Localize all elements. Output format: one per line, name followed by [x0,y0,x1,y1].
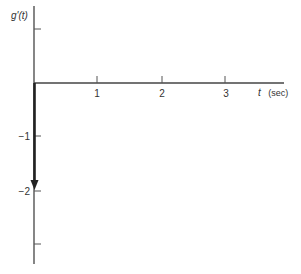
x-axis-label: t (sec) [258,82,288,99]
y-tick-label-m2: −2 [19,186,31,197]
y-axis-label: g'(t) [11,10,28,21]
impulse-chart: g'(t) 1 2 3 t (sec) −1 −2 [0,0,301,274]
y-tick-label-m1: −1 [19,131,31,142]
x-axis-variable: t [258,87,262,98]
x-tick-label-2: 2 [159,88,165,99]
x-tick-label-1: 1 [94,88,100,99]
x-tick-label-3: 3 [223,88,229,99]
x-axis-unit: (sec) [268,88,288,98]
impulse-arrowhead-icon [31,180,39,190]
